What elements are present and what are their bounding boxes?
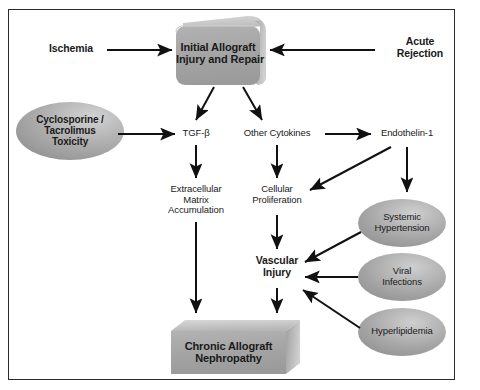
cni-toxicity-line-1: Cyclosporine / bbox=[36, 114, 104, 125]
node-label-other-cytokines: Other Cytokines bbox=[229, 128, 325, 139]
edge-initial-injury-to-other-cytokines bbox=[243, 87, 262, 120]
node-label-ecm: Extracellular Matrix Accumulation bbox=[152, 184, 240, 216]
cellular-proliferation-line-2: Proliferation bbox=[252, 194, 301, 205]
node-label-chronic-allograft-nephropathy: Chronic Allograft Nephropathy bbox=[171, 340, 286, 365]
acute-rejection-line-1: Acute bbox=[406, 35, 435, 47]
vascular-injury-line-1: Vascular bbox=[256, 254, 298, 266]
edge-initial-injury-to-tgf-beta bbox=[196, 87, 214, 120]
chronic-allograft-line-2: Nephropathy bbox=[195, 352, 262, 364]
cni-toxicity-line-3: Toxicity bbox=[52, 136, 88, 147]
node-label-vascular-injury: Vascular Injury bbox=[238, 255, 316, 279]
systemic-hypertension-line-1: Systemic bbox=[383, 211, 421, 222]
node-label-cellular-proliferation: Cellular Proliferation bbox=[238, 184, 316, 205]
node-label-initial-injury: Initial Allograft Injury and Repair bbox=[176, 41, 260, 66]
node-label-systemic-hypertension: Systemic Hypertension bbox=[358, 212, 446, 233]
initial-injury-line-2: Injury and Repair bbox=[176, 53, 264, 65]
ecm-line-3: Accumulation bbox=[168, 204, 224, 215]
cni-toxicity-line-2: Tacrolimus bbox=[44, 125, 96, 136]
node-label-endothelin: Endothelin-1 bbox=[372, 128, 442, 139]
vascular-injury-line-2: Injury bbox=[263, 266, 291, 278]
viral-infections-line-2: Infections bbox=[382, 276, 422, 287]
node-label-tgf-beta: TGF-β bbox=[168, 128, 224, 139]
figure-diagram: Ischemia Acute Rejection Initial Allogra… bbox=[0, 0, 480, 390]
viral-infections-line-1: Viral bbox=[393, 265, 411, 276]
node-label-cni-toxicity: Cyclosporine / Tacrolimus Toxicity bbox=[20, 114, 120, 148]
node-label-viral-infections: Viral Infections bbox=[358, 266, 446, 287]
node-label-acute-rejection: Acute Rejection bbox=[382, 36, 458, 60]
edge-endothelin-to-cellular-proliferation bbox=[310, 147, 391, 190]
initial-injury-line-1: Initial Allograft bbox=[181, 41, 256, 53]
chronic-allograft-line-1: Chronic Allograft bbox=[185, 340, 273, 352]
node-label-hyperlipidemia: Hyperlipidemia bbox=[358, 326, 446, 337]
acute-rejection-line-2: Rejection bbox=[397, 47, 443, 59]
edge-hyperlipidemia-to-vascular-injury bbox=[303, 290, 360, 328]
cellular-proliferation-line-1: Cellular bbox=[261, 183, 292, 194]
ecm-line-2: Matrix bbox=[183, 194, 208, 205]
ecm-line-1: Extracellular bbox=[171, 183, 222, 194]
systemic-hypertension-line-2: Hypertension bbox=[375, 222, 430, 233]
node-label-ischemia: Ischemia bbox=[36, 43, 106, 55]
